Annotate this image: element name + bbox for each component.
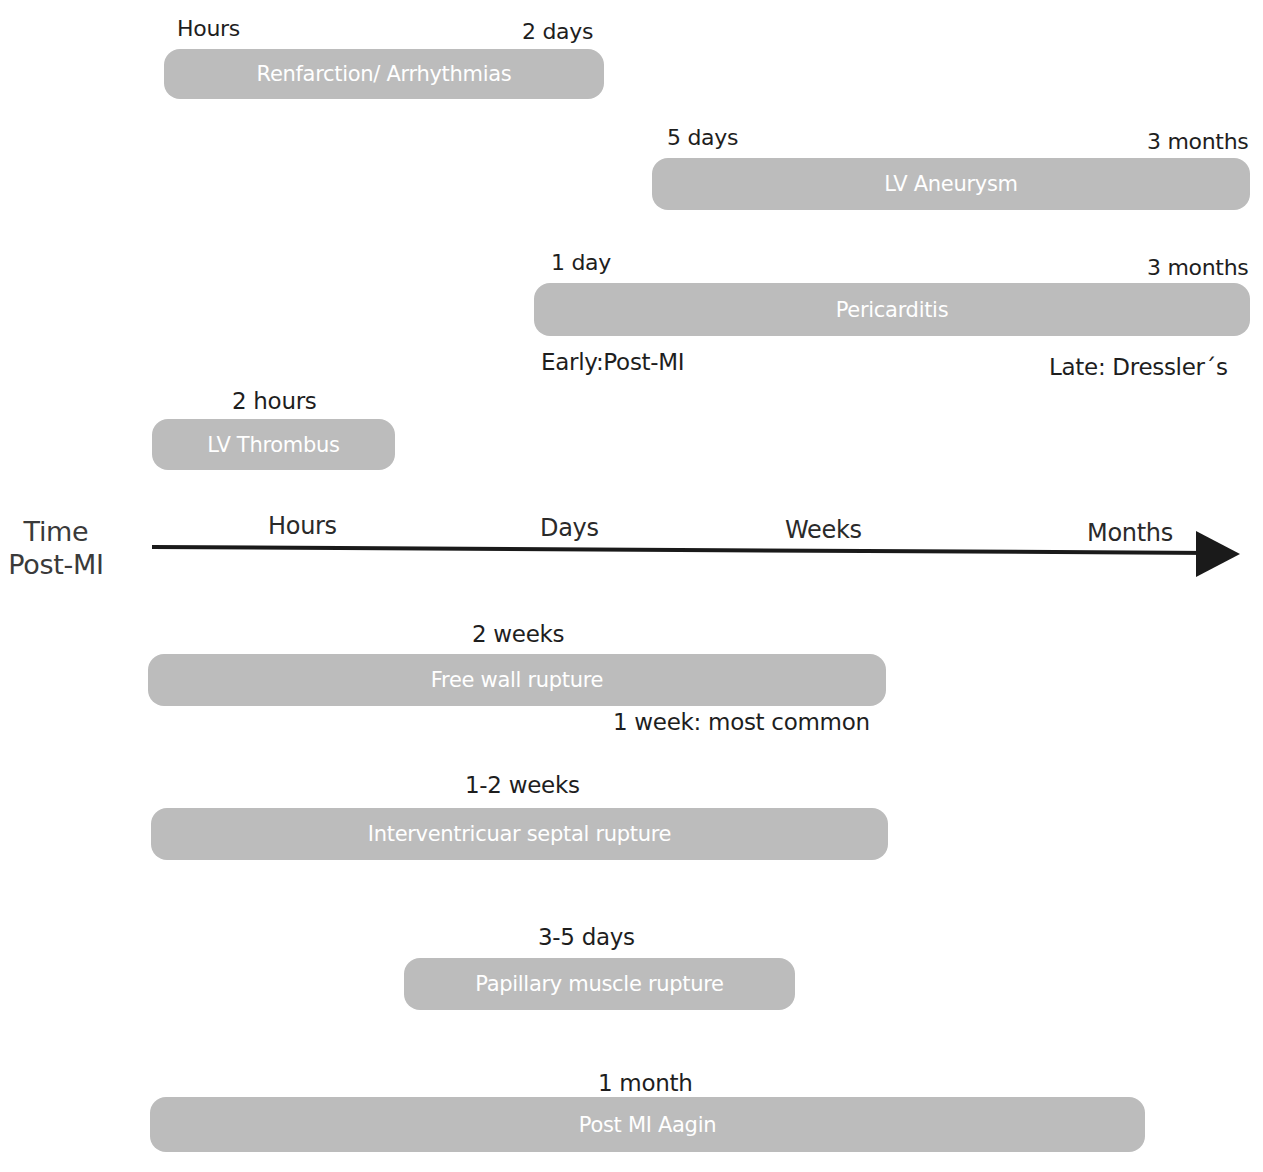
lv-aneurysm-start-label: 5 days <box>667 127 738 149</box>
renfarction-end-label: 2 days <box>522 21 593 43</box>
axis-tick-days: Days <box>540 516 599 540</box>
axis-title-line1: Time <box>0 516 112 549</box>
timeline-axis-line <box>152 545 1212 555</box>
bar-renfarction-arrhythmias: Renfarction/ Arrhythmias <box>164 49 604 99</box>
bar-post-mi-angina: Post MI Aagin <box>150 1097 1145 1152</box>
bar-label: LV Thrombus <box>207 433 339 457</box>
axis-tick-hours: Hours <box>268 514 337 538</box>
axis-tick-months: Months <box>1087 521 1173 545</box>
pericarditis-early-note: Early:Post-MI <box>541 351 684 374</box>
axis-title: Time Post-MI <box>0 516 112 582</box>
bar-label: Interventricuar septal rupture <box>368 822 671 846</box>
post-mi-angina-peak-label: 1 month <box>598 1072 693 1095</box>
bar-free-wall-rupture: Free wall rupture <box>148 654 886 706</box>
lv-thrombus-peak-label: 2 hours <box>232 390 317 413</box>
bar-pericarditis: Pericarditis <box>534 283 1250 336</box>
bar-interventricular-septal-rupture: Interventricuar septal rupture <box>151 808 888 860</box>
bar-papillary-muscle-rupture: Papillary muscle rupture <box>404 958 795 1010</box>
bar-label: Pericarditis <box>836 298 949 322</box>
axis-title-line2: Post-MI <box>0 549 112 582</box>
pericarditis-start-label: 1 day <box>551 252 611 274</box>
bar-label: Post MI Aagin <box>579 1113 716 1137</box>
pericarditis-end-label: 3 months <box>1147 257 1248 279</box>
bar-lv-thrombus: LV Thrombus <box>152 419 395 470</box>
axis-tick-weeks: Weeks <box>785 518 862 542</box>
renfarction-start-label: Hours <box>177 18 240 40</box>
free-wall-rupture-note: 1 week: most common <box>613 711 870 734</box>
arrow-right-icon <box>1196 531 1240 577</box>
septal-rupture-peak-label: 1-2 weeks <box>465 774 580 797</box>
bar-label: LV Aneurysm <box>884 172 1018 196</box>
bar-label: Renfarction/ Arrhythmias <box>257 62 512 86</box>
papillary-rupture-peak-label: 3-5 days <box>538 926 635 949</box>
free-wall-rupture-peak-label: 2 weeks <box>472 623 564 646</box>
lv-aneurysm-end-label: 3 months <box>1147 131 1248 153</box>
bar-lv-aneurysm: LV Aneurysm <box>652 158 1250 210</box>
pericarditis-late-note: Late: Dressler´s <box>1049 356 1228 379</box>
bar-label: Free wall rupture <box>431 668 603 692</box>
bar-label: Papillary muscle rupture <box>475 972 723 996</box>
